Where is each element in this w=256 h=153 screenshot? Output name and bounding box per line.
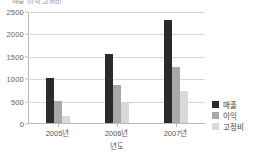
bar[interactable] bbox=[113, 85, 121, 123]
x-axis-tick-label: 2007년 bbox=[164, 127, 188, 138]
legend-swatch-icon bbox=[212, 123, 219, 130]
legend-item-label: 매출 bbox=[223, 99, 237, 110]
bar[interactable] bbox=[180, 91, 188, 123]
y-axis-tick-label: 2000 bbox=[7, 30, 25, 39]
bar[interactable] bbox=[121, 103, 129, 123]
legend: 매출이익고정비 bbox=[212, 99, 244, 132]
bar-group: 2005년 bbox=[28, 12, 87, 123]
bar[interactable] bbox=[54, 101, 62, 123]
x-axis-title: 년도 bbox=[28, 140, 205, 151]
bar-group: 2007년 bbox=[146, 12, 205, 123]
y-axis-tick-label: 500 bbox=[11, 97, 24, 106]
legend-item[interactable]: 매출 bbox=[212, 99, 244, 110]
bar[interactable] bbox=[105, 54, 113, 123]
bar[interactable] bbox=[164, 20, 172, 123]
y-axis-tick-mark bbox=[25, 124, 28, 125]
bar-chart: 매출 이익 고정비 25002000150010005000 2005년2006… bbox=[0, 0, 256, 153]
x-axis-tick-label: 2005년 bbox=[46, 127, 70, 138]
y-axis-tick-label: 0 bbox=[20, 120, 24, 129]
plot-area: 25002000150010005000 2005년2006년2007년 bbox=[28, 12, 205, 124]
clipped-title: 매출 이익 고정비 bbox=[12, 0, 132, 4]
bar[interactable] bbox=[62, 116, 70, 123]
bar-group: 2006년 bbox=[87, 12, 146, 123]
y-axis-tick-label: 1500 bbox=[7, 52, 25, 61]
bar[interactable] bbox=[46, 78, 54, 123]
bar-group-bars bbox=[105, 12, 129, 123]
legend-swatch-icon bbox=[212, 101, 219, 108]
legend-item[interactable]: 이익 bbox=[212, 110, 244, 121]
bar-group-bars bbox=[164, 12, 188, 123]
legend-item[interactable]: 고정비 bbox=[212, 121, 244, 132]
legend-swatch-icon bbox=[212, 112, 219, 119]
bar[interactable] bbox=[172, 67, 180, 123]
x-axis-tick-label: 2006년 bbox=[105, 127, 129, 138]
y-axis-tick-label: 2500 bbox=[7, 8, 25, 17]
legend-item-label: 이익 bbox=[223, 110, 237, 121]
y-axis-tick-label: 1000 bbox=[7, 75, 25, 84]
bar-group-bars bbox=[46, 12, 70, 123]
legend-item-label: 고정비 bbox=[223, 121, 244, 132]
